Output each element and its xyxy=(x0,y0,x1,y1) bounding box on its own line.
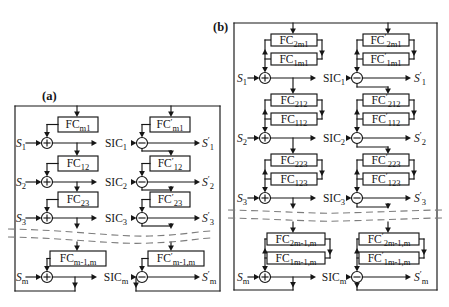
figure: (a)S1SIC1S′1FCm1FC′m1S2SIC2S′2FC12FC′12S… xyxy=(0,0,449,307)
panel-label: (a) xyxy=(42,89,57,103)
figure-diagram: (a)S1SIC1S′1FCm1FC′m1S2SIC2S′2FC12FC′12S… xyxy=(0,0,449,307)
panel-label: (b) xyxy=(213,20,228,34)
